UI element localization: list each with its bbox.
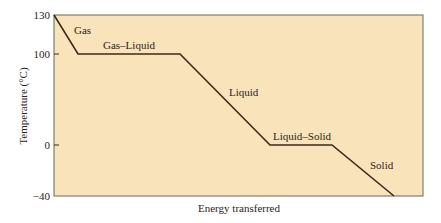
y-tick-100: 100 — [34, 48, 51, 60]
y-axis-title: Temperature (°C) — [17, 67, 30, 145]
label-gas: Gas — [74, 24, 91, 36]
label-liquid: Liquid — [229, 86, 259, 98]
label-gas-liquid: Gas–Liquid — [103, 39, 155, 51]
x-axis-title: Energy transferred — [198, 202, 280, 214]
heating-curve-chart: 130 100 0 −40 Temperature (°C) Energy tr… — [0, 0, 441, 223]
y-tick-0: 0 — [45, 139, 51, 151]
label-liquid-solid: Liquid–Solid — [273, 130, 332, 142]
y-axis-tick-labels: 130 100 0 −40 — [33, 9, 51, 202]
y-tick-130: 130 — [34, 9, 51, 21]
y-tick-minus-40: −40 — [33, 190, 51, 202]
label-solid: Solid — [370, 159, 394, 171]
